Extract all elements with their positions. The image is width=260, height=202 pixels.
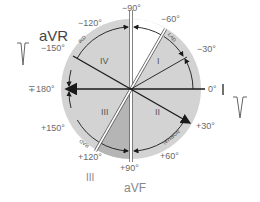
quadrant-iii: III (101, 108, 109, 117)
angle-minus150: −150° (41, 44, 65, 53)
angle-minus60: −60° (161, 15, 180, 24)
angle-pm180: ∓180° (28, 85, 55, 94)
lead-iii-label: III (86, 173, 94, 183)
angle-minus30: −30° (197, 45, 216, 54)
quadrant-iv: IV (100, 57, 109, 66)
quadrant-ii: II (155, 108, 160, 117)
angle-zero: 0° (208, 85, 217, 94)
angle-plus60: +60° (160, 152, 179, 161)
angle-minus90: −90° (122, 4, 141, 13)
lead-avr-label: aVR (39, 28, 68, 43)
angle-plus120: +120° (78, 153, 102, 162)
angle-plus90: +90° (120, 164, 139, 173)
lead-i-qrs-icon (233, 97, 247, 118)
lead-avf-label: aVF (124, 182, 146, 194)
axis-diagram: −90° −60° −30° 0° +30° +60° +90° +120° +… (0, 0, 260, 202)
angle-plus150: +150° (41, 124, 65, 133)
angle-minus120: −120° (78, 19, 102, 28)
angle-plus30: +30° (196, 122, 215, 131)
quadrant-i: I (157, 57, 160, 66)
avr-qrs-icon (17, 43, 29, 65)
